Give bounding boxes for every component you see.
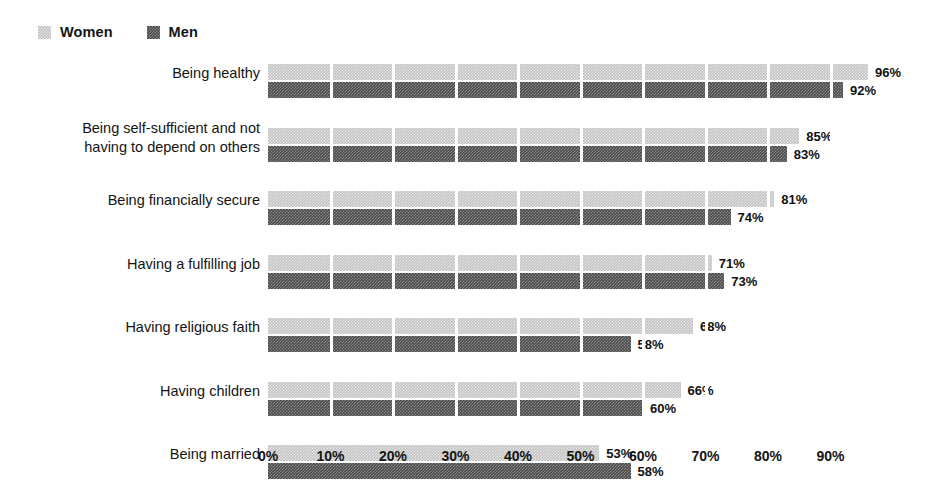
category-label: Being married — [170, 445, 260, 464]
gridline — [705, 60, 708, 440]
bar-men — [268, 463, 631, 479]
x-axis-tick-label: 0% — [258, 448, 278, 464]
gridline — [330, 60, 333, 440]
category-label: Having children — [160, 382, 260, 401]
bar-men — [268, 146, 787, 162]
category-label: Being financially secure — [108, 191, 260, 210]
bar-value-women: 96% — [875, 65, 901, 81]
bar-value-men: 74% — [738, 210, 764, 226]
bar-men — [268, 336, 631, 352]
x-axis-tick-label: 90% — [816, 448, 844, 464]
x-axis-tick-label: 20% — [379, 448, 407, 464]
bar-value-men: 73% — [731, 274, 757, 290]
x-axis-tick-label: 40% — [504, 448, 532, 464]
x-axis-tick-label: 80% — [754, 448, 782, 464]
gridline — [830, 60, 833, 440]
plot-area: Being healthy96%92%Being self-sufficient… — [0, 0, 938, 484]
bar-value-women: 85% — [806, 129, 832, 145]
bar-men — [268, 209, 731, 225]
bar-value-men: 92% — [850, 83, 876, 99]
category-label: Being healthy — [172, 64, 260, 83]
bar-men — [268, 82, 843, 98]
bar-value-women: 66% — [688, 383, 714, 399]
bar-women — [268, 64, 868, 80]
gridline — [517, 60, 520, 440]
x-axis-tick-label: 60% — [629, 448, 657, 464]
bar-value-men: 83% — [794, 147, 820, 163]
x-axis-tick-label: 30% — [441, 448, 469, 464]
bar-value-men: 60% — [650, 401, 676, 417]
bar-value-women: 81% — [781, 192, 807, 208]
x-axis-tick-label: 70% — [691, 448, 719, 464]
x-axis-tick-label: 10% — [316, 448, 344, 464]
bar-women — [268, 255, 712, 271]
gridline — [455, 60, 458, 440]
gridline — [580, 60, 583, 440]
bar-men — [268, 273, 724, 289]
category-label: Having a fulfilling job — [127, 255, 260, 274]
bar-value-men: 58% — [638, 464, 664, 480]
bar-value-women: 71% — [719, 256, 745, 272]
gridline — [767, 60, 770, 440]
gridline — [642, 60, 645, 440]
grouped-bar-chart: Women Men Being healthy96%92%Being self-… — [0, 0, 938, 484]
category-label: Having religious faith — [125, 318, 260, 337]
bar-women — [268, 128, 799, 144]
category-label: Being self-sufficient and not having to … — [82, 119, 260, 157]
x-axis-tick-label: 50% — [566, 448, 594, 464]
gridline — [392, 60, 395, 440]
bar-women — [268, 191, 774, 207]
